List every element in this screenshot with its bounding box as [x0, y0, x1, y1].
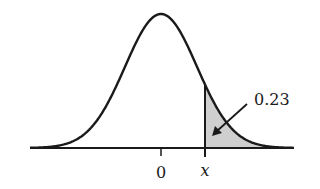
tick-label-x: x — [200, 163, 209, 179]
normal-curve — [30, 14, 294, 148]
tick-label-zero: 0 — [156, 165, 166, 181]
area-value-label: 0.23 — [254, 92, 290, 108]
